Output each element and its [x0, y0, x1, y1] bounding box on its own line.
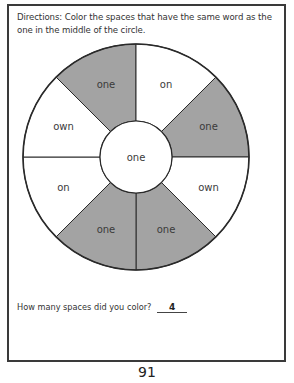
question-row: How many spaces did you color? 4	[17, 302, 187, 313]
page-number: 91	[0, 364, 294, 380]
center-word: one	[127, 152, 146, 163]
segment-word: own	[53, 121, 74, 132]
segment-word: on	[57, 182, 69, 193]
word-wheel: oneononeownoneoneonown one	[0, 0, 294, 383]
segment-word: own	[198, 182, 219, 193]
segment-word: one	[199, 121, 218, 132]
segment-word: one	[97, 79, 116, 90]
segment-word: on	[160, 79, 172, 90]
segment-word: one	[97, 224, 116, 235]
answer-field[interactable]: 4	[157, 303, 187, 313]
segment-word: one	[157, 224, 176, 235]
question-text: How many spaces did you color?	[17, 302, 151, 312]
